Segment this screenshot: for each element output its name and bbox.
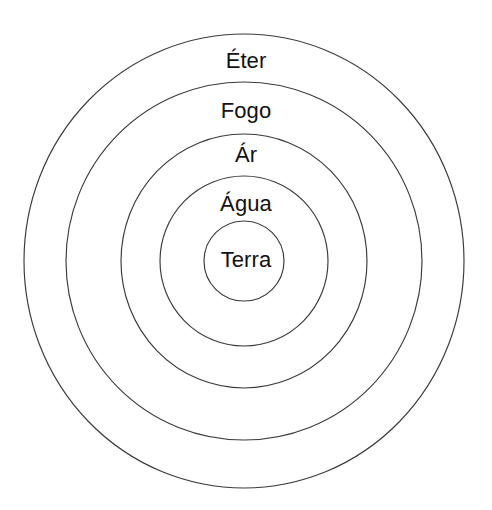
elements-spheres-diagram: Éter Fogo Ár Água Terra	[0, 0, 492, 510]
ring-label-terra: Terra	[0, 249, 492, 271]
ring-label-agua: Água	[0, 193, 492, 215]
ring-label-eter: Éter	[0, 50, 492, 72]
ring-label-fogo: Fogo	[0, 100, 492, 122]
ring-label-ar: Ár	[0, 144, 492, 166]
